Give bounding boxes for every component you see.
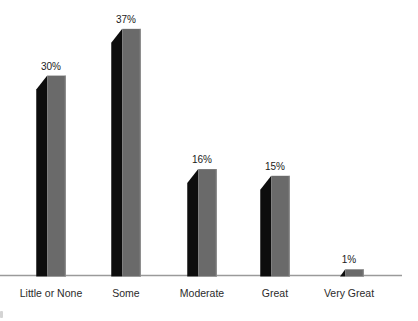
bar-value-label: 1% bbox=[342, 254, 357, 265]
category-label: Great bbox=[262, 287, 288, 299]
bar-shadow-face bbox=[187, 169, 198, 276]
bar-shadow-face bbox=[111, 29, 122, 277]
bar-value-label: 15% bbox=[265, 161, 285, 172]
bar-front-edge bbox=[216, 169, 217, 276]
bar-front-edge bbox=[289, 176, 290, 277]
bar-front-face bbox=[345, 269, 364, 276]
bar-value-label: 16% bbox=[192, 154, 212, 165]
category-label: Some bbox=[112, 287, 140, 299]
category-label: Very Great bbox=[324, 287, 374, 299]
bar-chart: 30%Little or None37%Some16%Moderate15%Gr… bbox=[0, 0, 418, 321]
chart-canvas: 30%Little or None37%Some16%Moderate15%Gr… bbox=[0, 0, 418, 321]
bar-front-face bbox=[122, 29, 141, 277]
bar-front-edge bbox=[65, 76, 66, 277]
figure: 30%Little or None37%Some16%Moderate15%Gr… bbox=[0, 0, 418, 321]
corner-artifact bbox=[0, 311, 3, 318]
category-label: Moderate bbox=[180, 287, 225, 299]
bar-front-face bbox=[271, 176, 290, 277]
bar-front-face bbox=[198, 169, 217, 276]
bar-front-edge bbox=[363, 269, 364, 276]
bar-shadow-face bbox=[260, 176, 271, 277]
category-label: Little or None bbox=[20, 287, 83, 299]
bar-value-label: 30% bbox=[41, 61, 61, 72]
bar-front-edge bbox=[140, 29, 141, 277]
bar-shadow-face bbox=[36, 76, 47, 277]
bar-value-label: 37% bbox=[116, 14, 136, 25]
bar-front-face bbox=[47, 76, 66, 277]
